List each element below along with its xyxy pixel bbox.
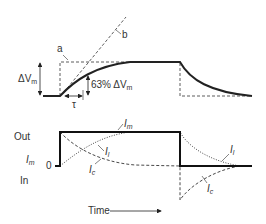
curve-il-label: Il — [105, 146, 110, 158]
time-label: Time — [88, 205, 110, 216]
pct-label: 63% ΔVm — [91, 79, 133, 91]
delta-vm-label: ΔVm — [18, 73, 37, 85]
il-curve — [60, 132, 240, 166]
curve-im-label: Im — [124, 118, 133, 130]
label-a-leader — [63, 55, 68, 60]
tau-label: τ — [72, 99, 76, 110]
curve-ic-label: Ic — [89, 164, 96, 176]
in-label: In — [20, 175, 28, 186]
curve-il2-label: Il — [230, 144, 235, 156]
curve-ic2-label: Ic — [207, 183, 214, 195]
ic2-leader — [202, 176, 207, 183]
il-leader — [98, 145, 104, 151]
label-a: a — [57, 43, 63, 54]
im-leader — [118, 124, 123, 130]
voltage-panel: ΔVm a b τ 63% ΔVm — [18, 17, 252, 110]
im-axis-label: Im — [26, 154, 35, 166]
current-panel: Out In Im 0 Im Il Ic Il Ic Time — [14, 118, 252, 216]
out-label: Out — [14, 131, 30, 142]
membrane-rc-diagram: ΔVm a b τ 63% ΔVm Out In Im 0 Im Il Ic I… — [0, 0, 266, 224]
label-b-leader — [116, 30, 121, 34]
ic-leader — [95, 159, 101, 164]
label-b: b — [122, 29, 128, 40]
zero-label: 0 — [46, 160, 52, 171]
il2-leader — [222, 154, 229, 161]
